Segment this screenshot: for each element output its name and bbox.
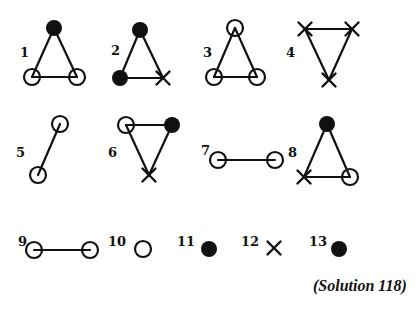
figure-12: 12 <box>241 234 281 255</box>
figure-label: 5 <box>16 145 25 160</box>
figure-3: 3 <box>203 20 265 85</box>
puzzle-solution-diagram: 12345678910111213 <box>0 0 418 309</box>
filled-circle-icon <box>201 241 217 257</box>
edge-line <box>329 29 352 80</box>
figure-label: 13 <box>309 234 327 249</box>
filled-circle-icon <box>331 241 347 257</box>
figure-8: 8 <box>288 116 358 185</box>
filled-circle-icon <box>46 20 62 36</box>
figure-label: 4 <box>286 45 295 60</box>
figure-label: 2 <box>111 43 120 58</box>
figure-13: 13 <box>309 234 347 257</box>
filled-circle-icon <box>319 116 335 132</box>
figure-label: 3 <box>203 45 212 60</box>
open-circle-icon <box>135 241 151 257</box>
cross-mark-icon <box>323 74 336 87</box>
figure-label: 1 <box>20 45 29 60</box>
figure-label: 12 <box>241 234 259 249</box>
figure-7: 7 <box>201 143 283 168</box>
figure-label: 7 <box>201 143 210 158</box>
figure-10: 10 <box>108 234 151 257</box>
edge-line <box>305 29 329 80</box>
figure-6: 6 <box>108 117 180 182</box>
figure-4: 4 <box>286 23 359 87</box>
figure-11: 11 <box>177 234 217 257</box>
figure-label: 8 <box>288 145 297 160</box>
figure-2: 2 <box>111 22 170 86</box>
figure-label: 6 <box>108 145 117 160</box>
figure-label: 10 <box>108 234 126 249</box>
filled-circle-icon <box>112 70 128 86</box>
figure-5: 5 <box>16 116 68 183</box>
edge-line <box>304 124 327 177</box>
cross-mark-icon <box>268 242 281 255</box>
filled-circle-icon <box>164 117 180 133</box>
cross-mark-icon <box>143 169 156 182</box>
filled-circle-icon <box>132 22 148 38</box>
figure-9: 9 <box>18 234 98 258</box>
figure-label: 11 <box>177 234 195 249</box>
figure-1: 1 <box>20 20 85 85</box>
edge-line <box>149 125 172 175</box>
solution-caption: (Solution 118) <box>313 277 407 295</box>
